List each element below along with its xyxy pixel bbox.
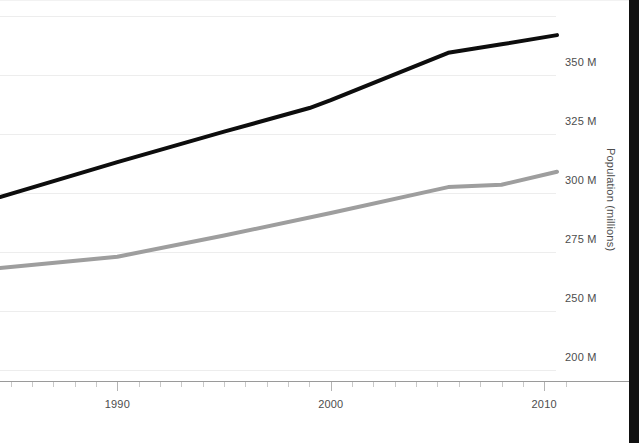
x-tick-minor	[75, 382, 76, 387]
x-tick-minor	[566, 382, 567, 387]
x-tick-minor	[309, 382, 310, 387]
x-tick-major	[544, 382, 545, 391]
y-tick-label: 350 M	[565, 56, 597, 68]
x-tick-minor	[352, 382, 353, 387]
x-tick-minor	[502, 382, 503, 387]
x-tick-minor	[181, 382, 182, 387]
x-tick-label: 2000	[318, 398, 343, 410]
y-tick-label: 300 M	[565, 174, 597, 186]
x-tick-minor	[96, 382, 97, 387]
x-tick-minor	[523, 382, 524, 387]
x-tick-minor	[459, 382, 460, 387]
population-line-chart: 350 M325 M300 M275 M250 M200 M 199020002…	[0, 0, 639, 443]
x-tick-minor	[245, 382, 246, 387]
y-tick-label: 275 M	[565, 233, 597, 245]
y-tick-label: 200 M	[565, 351, 597, 363]
right-edge-gutter	[629, 0, 639, 443]
lower-series-line	[0, 172, 557, 268]
x-tick-label: 1990	[105, 398, 130, 410]
x-tick-minor	[288, 382, 289, 387]
x-tick-minor	[53, 382, 54, 387]
y-tick-label: 325 M	[565, 115, 597, 127]
x-tick-major	[331, 382, 332, 391]
x-tick-major	[117, 382, 118, 391]
x-tick-minor	[203, 382, 204, 387]
series-layer	[0, 0, 639, 443]
x-tick-minor	[480, 382, 481, 387]
x-tick-minor	[11, 382, 12, 387]
x-tick-minor	[224, 382, 225, 387]
x-tick-minor	[416, 382, 417, 387]
y-tick-label: 250 M	[565, 292, 597, 304]
x-tick-minor	[32, 382, 33, 387]
y-axis-title: Population (millions)	[605, 148, 617, 251]
upper-series-line	[0, 35, 557, 197]
x-tick-minor	[139, 382, 140, 387]
x-tick-label: 2010	[532, 398, 557, 410]
x-axis-line	[0, 381, 629, 382]
x-tick-minor	[160, 382, 161, 387]
x-tick-minor	[267, 382, 268, 387]
x-tick-minor	[437, 382, 438, 387]
x-tick-minor	[373, 382, 374, 387]
x-tick-minor	[395, 382, 396, 387]
